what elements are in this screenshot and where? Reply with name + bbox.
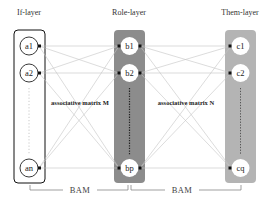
matrix-m-label: associative matrix M	[51, 99, 109, 106]
them-layer-label: Them-layer	[221, 8, 259, 17]
bam-diagram: If-layer Role-layer Them-layer associati…	[0, 0, 269, 204]
matrix-n-label: associative matrix N	[158, 99, 215, 106]
bam-right-label: BAM	[172, 185, 192, 195]
svg-text:a2: a2	[25, 68, 33, 78]
svg-text:c2: c2	[236, 68, 244, 78]
edges-matrix-n	[140, 46, 231, 168]
svg-text:c1: c1	[236, 41, 244, 51]
svg-text:an: an	[25, 163, 34, 173]
svg-text:bp: bp	[125, 163, 134, 173]
svg-text:cq: cq	[236, 163, 245, 173]
svg-text:b2: b2	[125, 68, 134, 78]
if-layer-label: If-layer	[17, 8, 41, 17]
role-layer-label: Role-layer	[112, 8, 146, 17]
bam-left-label: BAM	[70, 185, 90, 195]
edges-matrix-m	[39, 46, 119, 168]
svg-text:a1: a1	[25, 41, 33, 51]
svg-text:b1: b1	[125, 41, 134, 51]
